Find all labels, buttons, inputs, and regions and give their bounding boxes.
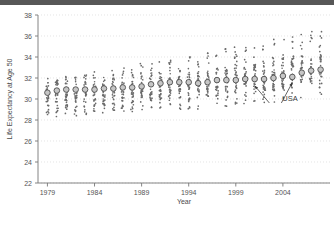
data-dot [300, 81, 302, 83]
data-dot [321, 83, 323, 85]
x-axis-label: Year [177, 198, 192, 205]
data-dot [224, 105, 226, 107]
x-tickmarks-group [47, 183, 282, 187]
data-dot [235, 67, 237, 69]
data-dot [94, 104, 96, 106]
data-dot [46, 85, 48, 87]
data-dot [263, 66, 265, 68]
data-dot [189, 77, 191, 79]
data-dot [224, 48, 226, 50]
data-dot [234, 51, 236, 53]
data-dot [122, 72, 124, 74]
data-dot [130, 109, 132, 111]
data-dot [262, 70, 264, 72]
usa-marker [195, 80, 201, 86]
data-dot [159, 102, 161, 104]
data-dot [83, 105, 85, 107]
data-dot [236, 75, 238, 77]
data-dot [262, 45, 264, 47]
data-dot [217, 90, 219, 92]
data-dot [244, 59, 246, 61]
y-axis-label: Life Expectancy at Age 50 [6, 58, 14, 139]
data-dot [123, 110, 125, 112]
y-tick-label: 28 [24, 117, 32, 124]
data-dot [273, 88, 275, 90]
x-tick-label: 1994 [181, 189, 197, 196]
data-dot [178, 68, 180, 70]
data-dot [198, 66, 200, 68]
data-dot [245, 49, 247, 51]
data-dot [206, 88, 208, 90]
data-dot [198, 79, 200, 81]
data-dot [140, 65, 142, 67]
data-dot [282, 65, 284, 67]
usa-marker [129, 85, 135, 91]
data-dot [75, 99, 77, 101]
data-dot [320, 61, 322, 63]
data-dot [141, 82, 143, 84]
data-dot [245, 85, 247, 87]
usa-marker [224, 77, 230, 83]
usa-marker [261, 76, 267, 82]
data-dot [282, 54, 284, 56]
data-dot [281, 81, 283, 83]
data-dot [102, 103, 104, 105]
data-dot [102, 94, 104, 96]
data-dot [66, 93, 68, 95]
data-dot [320, 54, 322, 56]
usa-marker [252, 76, 258, 82]
data-dot [151, 100, 153, 102]
data-dot [255, 91, 257, 93]
usa-marker [318, 67, 324, 73]
data-dot [151, 67, 153, 69]
data-dot [234, 68, 236, 70]
data-dot [93, 99, 95, 101]
data-dot [234, 56, 236, 58]
data-dot [281, 67, 283, 69]
x-tick-labels-group: 197919841989199419992004 [40, 189, 291, 196]
data-dot [65, 76, 67, 78]
usa-marker [158, 80, 164, 86]
data-dot [198, 94, 200, 96]
data-dot [131, 72, 133, 74]
data-dot [48, 85, 50, 87]
data-dot [102, 98, 104, 100]
data-dot [179, 97, 181, 99]
data-dot [255, 70, 257, 72]
data-dot [311, 78, 313, 80]
data-dot [140, 78, 142, 80]
usa-marker [63, 87, 69, 93]
data-dot [188, 68, 190, 70]
data-dot [282, 58, 284, 60]
data-dot [180, 105, 182, 107]
data-dot [235, 87, 237, 89]
usa-marker [299, 70, 305, 76]
data-dot [236, 55, 238, 57]
usa-marker [92, 87, 98, 93]
x-tick-label: 1984 [87, 189, 103, 196]
usa-marker [214, 77, 220, 83]
data-dot [121, 82, 123, 84]
data-dot [217, 92, 219, 94]
data-dot [47, 104, 49, 106]
data-dot [310, 59, 312, 61]
data-dot [319, 46, 321, 48]
data-dot [132, 100, 134, 102]
data-dot [302, 62, 304, 64]
data-dot [320, 65, 322, 67]
data-dot [47, 111, 49, 113]
data-dot [274, 95, 276, 97]
data-dot [272, 83, 274, 85]
usa-marker [45, 90, 51, 96]
data-dot [253, 56, 255, 58]
data-dot [94, 93, 96, 95]
data-dot [292, 47, 294, 49]
data-dot [66, 108, 68, 110]
data-dot [226, 86, 228, 88]
data-dot [140, 101, 142, 103]
data-dot [95, 102, 97, 104]
data-dot [207, 95, 209, 97]
data-dot [227, 96, 229, 98]
data-dot [158, 61, 160, 63]
data-dot [264, 71, 266, 73]
